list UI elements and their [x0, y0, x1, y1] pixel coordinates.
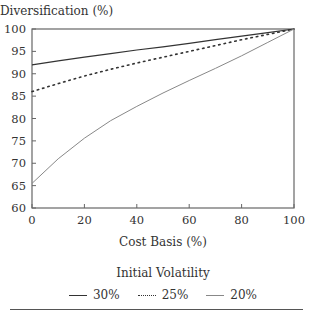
y-tick-label: 65 [11, 179, 26, 193]
plot-axes: 6065707580859095100020406080100 [4, 22, 305, 227]
y-tick-label: 85 [11, 89, 26, 103]
dotted-line-swatch-icon [138, 295, 156, 296]
y-tick-label: 70 [11, 156, 26, 170]
series-line-20 [32, 29, 294, 183]
y-tick-label: 100 [4, 22, 26, 36]
x-axis-label: Cost Basis (%) [0, 235, 311, 249]
y-tick-label: 80 [11, 112, 26, 126]
legend-title: Initial Volatility [0, 266, 311, 280]
series-line-30 [32, 29, 294, 65]
y-tick-label: 75 [11, 134, 26, 148]
solid-line-swatch-icon [69, 295, 87, 296]
x-tick-label: 40 [129, 213, 144, 227]
thin-line-swatch-icon [206, 295, 224, 296]
legend-item-25: 25% [138, 288, 189, 302]
y-tick-label: 90 [11, 67, 26, 81]
x-tick-label: 80 [234, 213, 249, 227]
series-line-25 [32, 29, 294, 92]
legend-label: 30% [93, 288, 120, 302]
legend: 30% 25% 20% [0, 288, 311, 302]
legend-label: 25% [162, 288, 189, 302]
legend-item-20: 20% [206, 288, 257, 302]
data-lines [32, 29, 294, 183]
legend-item-30: 30% [69, 288, 120, 302]
x-tick-label: 0 [28, 213, 35, 227]
x-tick-label: 100 [283, 213, 305, 227]
y-tick-label: 95 [11, 44, 26, 58]
plot-frame [32, 29, 294, 208]
y-tick-label: 60 [11, 201, 26, 215]
x-tick-label: 60 [182, 213, 197, 227]
bottom-rule [10, 309, 303, 310]
legend-label: 20% [230, 288, 257, 302]
x-tick-label: 20 [77, 213, 92, 227]
